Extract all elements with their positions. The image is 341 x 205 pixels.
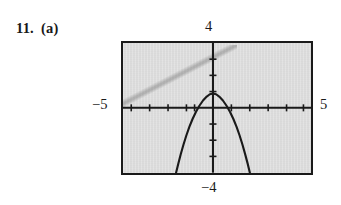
problem-label: 11.(a) (16, 20, 58, 37)
calculator-viewport (121, 41, 313, 175)
y-min-label: −4 (201, 179, 216, 196)
problem-part: (a) (41, 20, 59, 36)
parabola-plot (123, 43, 311, 173)
figure-container: 11.(a) (0, 0, 341, 205)
x-min-label: −5 (92, 96, 107, 113)
x-max-label: 5 (320, 96, 327, 113)
y-max-label: 4 (205, 18, 212, 35)
problem-number: 11. (16, 20, 34, 36)
